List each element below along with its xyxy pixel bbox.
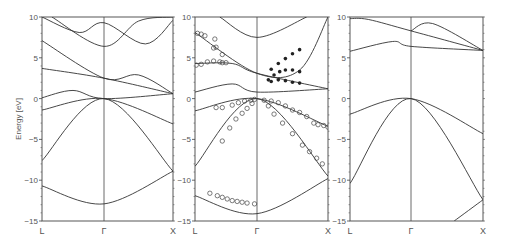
experimental-point-open bbox=[312, 121, 316, 125]
experimental-point-filled bbox=[277, 62, 281, 66]
x-tick-label: L bbox=[347, 226, 352, 236]
experimental-point-open bbox=[220, 52, 224, 56]
band-line bbox=[220, 17, 307, 37]
band-line bbox=[411, 23, 483, 51]
experimental-point-open bbox=[235, 199, 239, 203]
y-tick-label: −15 bbox=[24, 217, 38, 226]
experimental-point-filled bbox=[284, 68, 288, 72]
experimental-point-filled bbox=[291, 52, 295, 56]
y-tick-label: −15 bbox=[177, 217, 191, 226]
experimental-point-open bbox=[269, 99, 273, 103]
x-tick-label: X bbox=[325, 226, 331, 236]
experimental-point-filled bbox=[291, 80, 295, 84]
x-tick-label: Γ bbox=[409, 226, 414, 236]
panel-middle: 1050−5−10−15LΓX bbox=[177, 13, 331, 236]
experimental-point-open bbox=[208, 191, 212, 195]
experimental-point-open bbox=[245, 201, 249, 205]
band-line bbox=[42, 41, 173, 94]
band-line bbox=[350, 41, 483, 51]
experimental-point-open bbox=[215, 194, 219, 198]
experimental-point-filled bbox=[291, 68, 295, 72]
panel-left: 1050−5−10−15LΓX bbox=[24, 13, 176, 236]
y-tick-label: −5 bbox=[337, 135, 347, 144]
experimental-point-open bbox=[320, 162, 324, 166]
y-tick-label: −15 bbox=[332, 217, 346, 226]
experimental-point-open bbox=[252, 202, 256, 206]
experimental-point-filled bbox=[284, 57, 288, 61]
experimental-point-filled bbox=[298, 70, 302, 74]
plot-frame bbox=[42, 17, 173, 221]
experimental-point-open bbox=[230, 103, 234, 107]
y-tick-label: 0 bbox=[187, 95, 192, 104]
y-tick-label: 10 bbox=[29, 13, 38, 22]
band-line bbox=[195, 84, 328, 92]
experimental-point-filled bbox=[298, 81, 302, 85]
y-tick-label: −10 bbox=[177, 176, 191, 185]
y-tick-label: 10 bbox=[182, 13, 191, 22]
experimental-point-filled bbox=[277, 78, 281, 82]
experimental-point-filled bbox=[272, 73, 276, 77]
experimental-point-open bbox=[213, 37, 217, 41]
band-line bbox=[42, 98, 173, 124]
experimental-point-open bbox=[272, 112, 276, 116]
y-tick-label: −5 bbox=[29, 135, 39, 144]
experimental-point-open bbox=[236, 100, 240, 104]
y-tick-label: 0 bbox=[342, 95, 347, 104]
band-line bbox=[350, 99, 483, 200]
band-line bbox=[195, 17, 328, 78]
plot-frame bbox=[350, 17, 483, 221]
y-tick-label: −10 bbox=[332, 176, 346, 185]
experimental-point-open bbox=[214, 105, 218, 109]
experimental-point-filled bbox=[278, 70, 282, 74]
y-tick-label: 10 bbox=[337, 13, 346, 22]
panel-right: 1050−5−10−15LΓX bbox=[332, 13, 486, 236]
y-tick-label: −5 bbox=[182, 135, 192, 144]
experimental-point-open bbox=[199, 62, 203, 66]
experimental-point-open bbox=[220, 195, 224, 199]
band-line bbox=[350, 98, 483, 134]
experimental-point-open bbox=[300, 143, 304, 147]
band-line bbox=[42, 99, 173, 172]
experimental-point-open bbox=[220, 105, 224, 109]
experimental-point-open bbox=[280, 121, 284, 125]
experimental-point-open bbox=[225, 197, 229, 201]
experimental-point-filled bbox=[298, 48, 302, 52]
x-tick-label: L bbox=[192, 226, 197, 236]
experimental-point-filled bbox=[269, 80, 273, 84]
band-line bbox=[52, 17, 173, 46]
band-line bbox=[195, 99, 328, 177]
band-line bbox=[42, 171, 173, 204]
y-tick-label: −10 bbox=[24, 176, 38, 185]
band-line bbox=[195, 98, 328, 126]
y-tick-label: 5 bbox=[34, 54, 39, 63]
x-tick-label: L bbox=[39, 226, 44, 236]
x-tick-label: Γ bbox=[102, 226, 107, 236]
band-line bbox=[42, 90, 173, 98]
band-line bbox=[195, 63, 328, 89]
band-line bbox=[42, 17, 173, 44]
experimental-point-open bbox=[220, 139, 224, 143]
experimental-point-open bbox=[316, 123, 320, 127]
y-tick-label: 0 bbox=[34, 95, 39, 104]
experimental-point-filled bbox=[269, 67, 273, 71]
experimental-point-open bbox=[290, 131, 294, 135]
y-tick-label: 5 bbox=[187, 54, 192, 63]
experimental-point-open bbox=[234, 117, 238, 121]
experimental-point-open bbox=[245, 106, 249, 110]
band-line bbox=[454, 200, 483, 221]
experimental-point-open bbox=[240, 200, 244, 204]
experimental-point-open bbox=[266, 104, 270, 108]
band-structure-figure: 1050−5−10−15LΓX1050−5−10−15LΓX1050−5−10−… bbox=[0, 0, 507, 242]
x-tick-label: X bbox=[480, 226, 486, 236]
x-tick-label: X bbox=[170, 226, 176, 236]
experimental-point-open bbox=[230, 198, 234, 202]
experimental-point-filled bbox=[284, 79, 288, 83]
y-tick-label: 5 bbox=[342, 54, 347, 63]
experimental-point-open bbox=[240, 111, 244, 115]
experimental-point-open bbox=[228, 126, 232, 130]
x-tick-label: Γ bbox=[255, 226, 260, 236]
experimental-point-open bbox=[203, 34, 207, 38]
band-line bbox=[350, 18, 483, 50]
